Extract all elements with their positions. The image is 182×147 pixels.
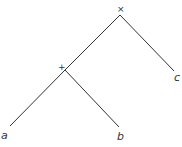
edge-root-inner — [65, 15, 120, 70]
root-operator-times: × — [117, 4, 125, 14]
edge-inner-b — [65, 70, 119, 127]
edge-root-c — [120, 15, 174, 71]
expression-tree-diagram: × + c a b — [0, 0, 182, 147]
leaf-label-c: c — [174, 71, 180, 84]
leaf-label-b: b — [117, 130, 124, 143]
leaf-label-a: a — [1, 129, 8, 142]
edge-inner-a — [10, 70, 65, 126]
inner-operator-plus: + — [58, 62, 66, 72]
